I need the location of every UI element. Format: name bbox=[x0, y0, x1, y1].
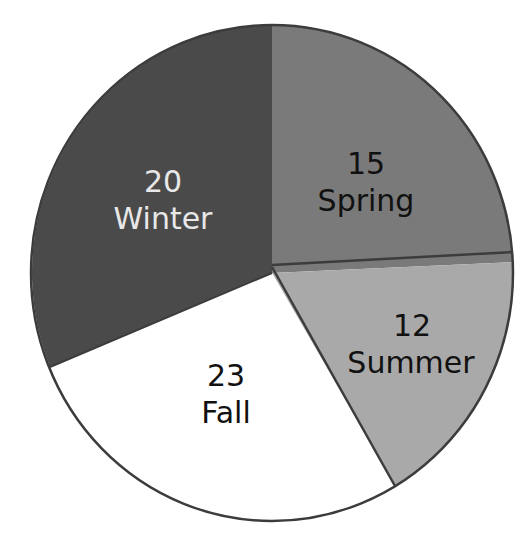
label-winter-value: 20 bbox=[144, 164, 182, 199]
slice-spring bbox=[272, 25, 513, 273]
label-fall-value: 23 bbox=[207, 358, 245, 393]
label-fall-category: Fall bbox=[201, 395, 251, 430]
label-winter-category: Winter bbox=[114, 201, 214, 236]
pie-chart: 20 Winter 15 Spring 12 Summer 23 Fall bbox=[0, 0, 529, 541]
label-spring-category: Spring bbox=[318, 183, 415, 218]
label-summer-category: Summer bbox=[347, 345, 475, 380]
label-summer-value: 12 bbox=[393, 308, 431, 343]
label-spring-value: 15 bbox=[347, 146, 385, 181]
